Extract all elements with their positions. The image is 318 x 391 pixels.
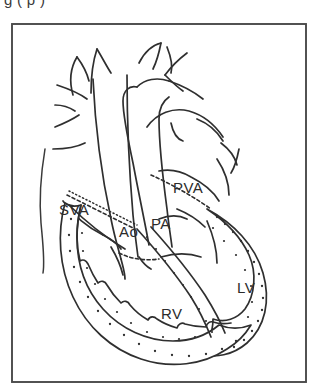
panel-border xyxy=(12,24,306,382)
label-sva: SVA xyxy=(59,201,89,218)
figure-caption-strip: g ( p ) xyxy=(0,0,318,20)
heart-diagram-svg: SVA Ao PA PVA RV LV xyxy=(11,23,307,383)
label-rv: RV xyxy=(161,305,182,322)
figure-caption-text: g ( p ) xyxy=(4,0,45,8)
great-vessel-branches-top-right xyxy=(139,43,187,91)
label-ao: Ao xyxy=(119,223,138,240)
left-lateral-branches xyxy=(53,85,87,149)
sva-free-wall-contour xyxy=(40,149,45,273)
figure-root: g ( p ) xyxy=(0,0,318,391)
pva-right-branches xyxy=(217,143,239,195)
label-pva: PVA xyxy=(173,179,203,196)
pa-branch-upper xyxy=(137,79,203,99)
great-vessel-branches-top-left xyxy=(71,49,111,95)
diagram-panel: SVA Ao PA PVA RV LV xyxy=(11,23,307,383)
label-pa: PA xyxy=(151,215,171,232)
label-lv: LV xyxy=(237,279,255,296)
